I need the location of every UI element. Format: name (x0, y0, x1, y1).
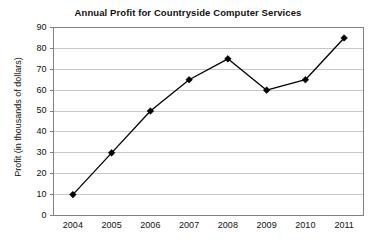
x-tick-label: 2005 (102, 220, 122, 230)
chart-container: Annual Profit for Countryside Computer S… (0, 0, 376, 249)
y-tick-label: 80 (36, 43, 46, 53)
y-tick-label: 90 (36, 22, 46, 32)
data-series (73, 38, 344, 195)
y-tick-label: 50 (36, 105, 46, 115)
plot-frame (54, 28, 364, 216)
y-tick-label: 10 (36, 189, 46, 199)
plot-area: 0102030405060708090 20042005200620072008… (0, 0, 376, 249)
x-tick-label: 2010 (295, 220, 315, 230)
series-line (73, 38, 344, 195)
y-tick-label: 20 (36, 168, 46, 178)
x-tick-label: 2006 (140, 220, 160, 230)
y-tick-label: 40 (36, 126, 46, 136)
x-tick-label: 2008 (218, 220, 238, 230)
y-axis-ticks (50, 28, 54, 216)
x-tick-label: 2009 (257, 220, 277, 230)
y-tick-label: 30 (36, 147, 46, 157)
y-tick-label: 60 (36, 85, 46, 95)
x-tick-label: 2007 (179, 220, 199, 230)
plot-border (54, 28, 364, 216)
x-axis-labels: 20042005200620072008200920102011 (63, 220, 354, 230)
gridlines (54, 28, 364, 195)
x-tick-label: 2011 (334, 220, 353, 230)
x-tick-label: 2004 (63, 220, 83, 230)
y-tick-label: 0 (41, 210, 46, 220)
y-tick-label: 70 (36, 64, 46, 74)
y-axis-labels: 0102030405060708090 (36, 22, 46, 220)
